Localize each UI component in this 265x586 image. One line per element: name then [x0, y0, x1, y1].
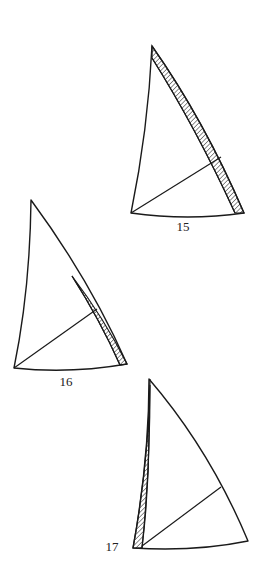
- sail-figure-15: 15: [131, 46, 244, 234]
- figure-label: 16: [60, 374, 74, 389]
- diagonal-seam: [142, 487, 221, 546]
- sail-figure-16: 16: [14, 200, 127, 389]
- leech-inner-line: [152, 58, 235, 213]
- diagonal-seam: [14, 309, 97, 368]
- hatched-luff-strip: [133, 379, 150, 548]
- diagonal-seam: [131, 157, 221, 213]
- sail-diagrams: 15 16 17: [0, 0, 265, 586]
- sail-figure-17: 17: [106, 379, 249, 554]
- hatched-leech-strip: [152, 46, 244, 213]
- figure-label: 17: [106, 539, 120, 554]
- figure-label: 15: [177, 219, 190, 234]
- leech-inner-line: [72, 276, 120, 365]
